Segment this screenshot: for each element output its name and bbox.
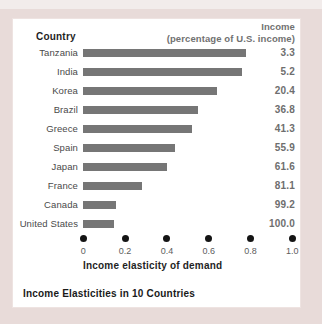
x-axis-title: Income elasticity of demand <box>83 260 222 271</box>
table-row: United States100.0 <box>13 214 300 233</box>
country-label: United States <box>13 218 78 229</box>
income-percentage-value: 61.6 <box>275 161 295 172</box>
elasticity-bar <box>83 87 217 95</box>
axis-tick-dot <box>289 235 296 242</box>
income-percentage-value: 55.9 <box>275 142 295 153</box>
axis-tick-label: 0.8 <box>234 246 268 256</box>
elasticity-bar <box>83 49 246 57</box>
background-top-strip <box>0 0 322 9</box>
country-label: Greece <box>13 123 78 134</box>
table-row: France81.1 <box>13 176 300 195</box>
income-percentage-value: 81.1 <box>275 180 295 191</box>
table-row: Spain55.9 <box>13 138 300 157</box>
elasticity-bar <box>83 163 167 171</box>
country-label: India <box>13 66 78 77</box>
elasticity-bar <box>83 182 142 190</box>
figure-caption: Income Elasticities in 10 Countries <box>23 288 195 299</box>
country-label: Tanzania <box>13 47 78 58</box>
table-row: Korea20.4 <box>13 81 300 100</box>
income-percentage-value: 99.2 <box>275 199 295 210</box>
country-label: France <box>13 180 78 191</box>
table-row: Japan61.6 <box>13 157 300 176</box>
axis-tick-label: 0.2 <box>108 246 142 256</box>
elasticity-bar <box>83 68 242 76</box>
axis-tick-dot <box>247 235 254 242</box>
country-label: Canada <box>13 199 78 210</box>
table-row: Tanzania3.3 <box>13 43 300 62</box>
country-label: Japan <box>13 161 78 172</box>
axis-tick-label: 0 <box>66 246 100 256</box>
table-row: Greece41.3 <box>13 119 300 138</box>
country-label: Korea <box>13 85 78 96</box>
income-percentage-value: 41.3 <box>275 123 295 134</box>
axis-tick-label: 0.4 <box>150 246 184 256</box>
axis-tick-dot <box>122 235 129 242</box>
axis-tick-label: 1.0 <box>275 246 309 256</box>
elasticity-bar <box>83 220 114 228</box>
axis-tick-dot <box>80 235 87 242</box>
income-percentage-value: 20.4 <box>275 85 295 96</box>
table-row: Canada99.2 <box>13 195 300 214</box>
income-percentage-value: 100.0 <box>269 218 295 229</box>
elasticity-bar <box>83 201 116 209</box>
table-row: Brazil36.8 <box>13 100 300 119</box>
income-percentage-value: 3.3 <box>280 47 295 58</box>
elasticity-bar <box>83 144 175 152</box>
axis-tick-label: 0.6 <box>192 246 226 256</box>
country-label: Brazil <box>13 104 78 115</box>
elasticity-bar <box>83 106 198 114</box>
table-row: India5.2 <box>13 62 300 81</box>
chart-panel: Country Income (percentage of U.S. incom… <box>12 18 301 308</box>
country-label: Spain <box>13 142 78 153</box>
income-percentage-value: 36.8 <box>275 104 295 115</box>
income-percentage-value: 5.2 <box>280 66 295 77</box>
elasticity-bar <box>83 125 192 133</box>
